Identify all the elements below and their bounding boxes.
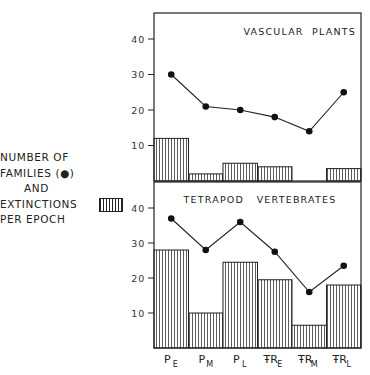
svg-text:E: E [277,360,282,369]
x-tick-label: ŦR [332,353,348,366]
svg-text:L: L [347,360,352,369]
extinction-bar [189,313,224,348]
hatch-swatch-icon [99,198,123,212]
families-dot [271,248,278,255]
extinction-bar [154,250,189,348]
families-line [171,75,344,132]
families-dot [340,262,347,269]
legend-line-5: PER EPOCH [0,212,140,228]
extinction-bar [223,262,258,348]
x-tick-label: ŦR [263,353,279,366]
y-tick-label: 30 [131,69,145,80]
extinction-bar [154,138,189,181]
panel-vascular-plants: 10203040VASCULAR PLANTS [131,13,361,181]
families-dot [168,215,175,222]
families-dot [202,247,209,254]
extinction-bar [258,280,293,348]
legend-line-2: FAMILIES (●) [0,166,140,182]
families-dot [237,107,244,114]
families-dot [340,89,347,96]
svg-text:M: M [311,360,318,369]
svg-text:L: L [242,360,247,369]
families-dot [202,103,209,110]
y-tick-label: 30 [131,238,145,249]
families-dot [271,114,278,121]
svg-text:M: M [206,360,213,369]
legend: NUMBER OF FAMILIES (●) AND EXTINCTIONS P… [0,150,140,228]
y-tick-label: 20 [131,273,145,284]
y-tick-label: 40 [131,34,145,45]
extinction-bar [223,163,258,181]
families-dot [306,289,313,296]
extinction-bar [189,174,224,181]
x-tick-label: P [198,353,205,366]
y-tick-label: 10 [131,308,145,319]
y-tick-label: 20 [131,105,145,116]
x-tick-label: P [233,353,240,366]
panel-tetrapod-vertebrates: 10203040TETRAPOD VERTEBRATESPEPMPLŦREŦRM… [131,182,361,369]
families-dot [168,71,175,78]
panel-title: TETRAPOD VERTEBRATES [183,194,337,205]
families-dot [306,128,313,135]
panel-title: VASCULAR PLANTS [243,26,356,37]
families-dot [237,219,244,226]
extinction-bar [327,169,362,181]
extinction-bar [258,167,293,181]
svg-text:E: E [173,360,178,369]
legend-line-3: AND [0,181,140,197]
x-tick-label: P [164,353,171,366]
legend-line-1: NUMBER OF [0,150,140,166]
extinction-bar [327,285,362,348]
extinction-bar [292,325,327,348]
